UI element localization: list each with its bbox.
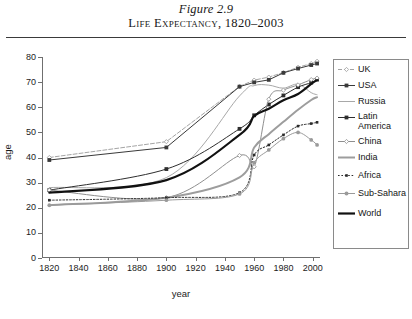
plot-area — [42, 57, 320, 258]
data-point — [282, 71, 286, 75]
data-point — [237, 153, 241, 157]
y-tick-label: 10 — [10, 228, 36, 237]
data-point — [238, 127, 242, 131]
series-usa — [47, 62, 319, 162]
y-tick-label: 80 — [10, 53, 36, 62]
legend-item-sub-sahara[interactable]: Sub-Sahara — [337, 188, 406, 200]
data-point — [253, 154, 256, 157]
y-tick-label: 20 — [10, 203, 36, 212]
legend-label: Sub-Sahara — [356, 188, 406, 198]
legend-swatch-icon — [337, 64, 356, 75]
data-point — [315, 62, 319, 66]
legend-swatch-icon — [337, 152, 356, 163]
data-point — [48, 199, 51, 202]
legend-item-latin-america[interactable]: Latin America — [337, 112, 406, 124]
data-point — [47, 158, 51, 162]
legend-item-russia[interactable]: Russia — [337, 96, 386, 108]
figure-title-block: Figure 2.9 Life Expectancy, 1820–2003 — [0, 2, 412, 31]
series-latin-america — [47, 78, 319, 192]
legend-swatch-icon — [337, 170, 356, 181]
series-world — [49, 80, 317, 193]
data-point — [252, 80, 256, 84]
legend-item-world[interactable]: World — [337, 208, 381, 220]
data-point — [238, 85, 242, 89]
legend-label: Latin America — [356, 112, 406, 131]
data-point — [309, 138, 313, 142]
x-tick-label: 2000 — [296, 264, 330, 273]
x-axis-title: year — [42, 288, 320, 299]
legend-swatch-icon — [337, 96, 356, 107]
legend-label: USA — [356, 80, 377, 90]
legend-swatch-icon — [337, 208, 356, 219]
data-point — [282, 134, 285, 137]
legend-swatch-icon — [337, 112, 356, 123]
legend-swatch-icon — [337, 80, 356, 91]
data-point — [267, 148, 271, 152]
legend-item-usa[interactable]: USA — [337, 80, 377, 92]
figure-caption: Life Expectancy, 1820–2003 — [0, 16, 412, 31]
legend-item-africa[interactable]: Africa — [337, 170, 381, 182]
data-point — [296, 67, 300, 71]
figure-number: Figure 2.9 — [0, 2, 412, 16]
data-point — [310, 122, 313, 125]
data-point — [267, 144, 270, 147]
y-tick-label: 60 — [10, 103, 36, 112]
data-point — [315, 143, 319, 147]
data-point — [164, 198, 168, 202]
data-point — [281, 88, 285, 92]
legend-label: China — [356, 136, 382, 146]
legend-label: India — [356, 152, 378, 162]
y-tick — [38, 258, 42, 259]
y-tick-label: 30 — [10, 178, 36, 187]
data-point — [252, 161, 256, 165]
y-tick-label: 70 — [10, 78, 36, 87]
y-tick-label: 0 — [10, 254, 36, 263]
data-point — [267, 97, 271, 101]
data-point — [316, 121, 319, 124]
legend-item-uk[interactable]: UK — [337, 64, 371, 76]
series-uk — [47, 59, 319, 159]
legend-label: World — [356, 208, 381, 218]
legend-swatch-icon — [337, 136, 356, 147]
data-point — [164, 167, 168, 171]
data-point — [267, 78, 271, 82]
legend-item-china[interactable]: China — [337, 136, 382, 148]
data-point — [238, 192, 242, 196]
data-point — [282, 94, 286, 98]
legend-label: UK — [356, 64, 371, 74]
legend-label: Russia — [356, 96, 386, 106]
data-point — [297, 125, 300, 128]
y-tick-label: 50 — [10, 128, 36, 137]
title-divider-rule — [6, 37, 406, 38]
data-point — [282, 137, 286, 141]
data-point — [296, 130, 300, 134]
data-point — [164, 146, 168, 150]
chart-legend: UKUSARussiaLatin AmericaChinaIndiaAfrica… — [333, 59, 409, 249]
legend-swatch-icon — [337, 188, 356, 199]
figure-page: Figure 2.9 Life Expectancy, 1820–2003 ag… — [0, 0, 412, 319]
legend-item-india[interactable]: India — [337, 152, 378, 164]
data-point — [47, 203, 51, 207]
series-lines — [42, 57, 320, 258]
legend-label: Africa — [356, 170, 381, 180]
y-tick-label: 40 — [10, 153, 36, 162]
data-point — [309, 63, 313, 67]
